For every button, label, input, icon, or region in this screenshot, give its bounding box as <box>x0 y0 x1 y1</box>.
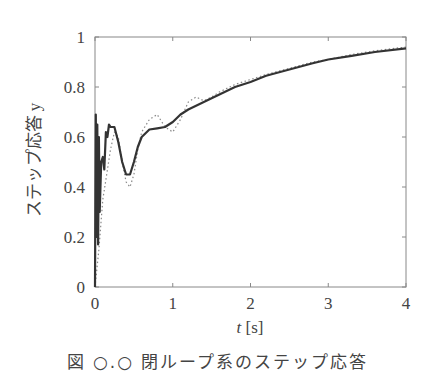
y-tick-label: 0.6 <box>64 128 85 147</box>
y-tick-label: 1 <box>77 28 86 47</box>
x-tick-label: 0 <box>91 294 100 313</box>
x-tick-label: 2 <box>246 294 255 313</box>
y-axis-label: ステップ応答 y <box>25 102 44 217</box>
y-tick-labels: 00.20.40.60.81 <box>64 28 86 297</box>
data-series <box>95 47 406 287</box>
x-tick-label: 1 <box>169 294 178 313</box>
x-tick-label: 4 <box>402 294 411 313</box>
y-tick-label: 0.4 <box>64 178 86 197</box>
y-tick-label: 0.2 <box>64 228 85 247</box>
figure-caption: 図 ○.○ 閉ループ系のステップ応答 <box>0 348 435 373</box>
plot-frame <box>95 37 406 287</box>
x-tick-labels: 01234 <box>91 294 411 313</box>
y-tick-label: 0 <box>77 278 86 297</box>
y-tick-label: 0.8 <box>64 78 85 97</box>
x-axis-label: t [s] <box>237 318 264 337</box>
x-tick-label: 3 <box>324 294 333 313</box>
axis-ticks <box>95 37 406 287</box>
series-line-solid <box>95 48 406 287</box>
